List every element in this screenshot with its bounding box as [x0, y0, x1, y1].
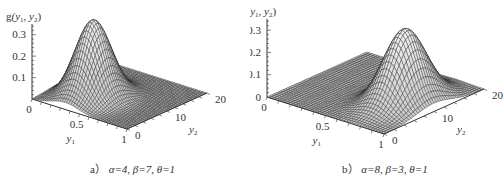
svg-text:1: 1 [378, 138, 384, 150]
z-axis-label: g(y1, y2) [250, 5, 276, 19]
y2-axis-label: y2 [456, 123, 466, 137]
z-axis-ticks: 00.10.20.3 [250, 21, 271, 102]
svg-text:0.5: 0.5 [316, 120, 330, 132]
svg-text:1: 1 [121, 133, 127, 145]
caption-a: a） α=4, β=7, θ=1 [90, 160, 175, 176]
y1-axis-label: y1 [66, 132, 76, 146]
caption-a-theta: θ=1 [157, 163, 175, 175]
y2-axis-label: y2 [188, 123, 198, 137]
svg-text:0: 0 [261, 101, 267, 113]
caption-b-label: b） [342, 163, 359, 175]
svg-text:0: 0 [392, 134, 398, 146]
y1-axis-label: y1 [312, 134, 322, 148]
surface-plot-a: 0.10.20.3g(y1, y2)00.51y101020y2 [0, 0, 250, 160]
svg-text:0.3: 0.3 [12, 28, 26, 40]
caption-a-beta: β=7, [133, 163, 154, 175]
svg-text:0.2: 0.2 [12, 50, 26, 62]
svg-text:20: 20 [492, 89, 503, 101]
svg-text:0.2: 0.2 [250, 46, 261, 58]
svg-text:20: 20 [215, 93, 227, 105]
svg-text:0: 0 [135, 129, 141, 141]
plot-panel-b: 00.10.20.3g(y1, y2)00.51y101020y2 b） α=8… [250, 0, 503, 183]
caption-b-beta: β=3, [385, 163, 406, 175]
svg-text:0.1: 0.1 [12, 71, 26, 83]
svg-text:0: 0 [26, 103, 32, 115]
plot-panel-a: 0.10.20.3g(y1, y2)00.51y101020y2 a） α=4,… [0, 0, 250, 183]
caption-a-alpha: α=4, [109, 163, 130, 175]
z-axis-label: g(y1, y2) [6, 10, 41, 24]
caption-b-alpha: α=8, [361, 163, 382, 175]
caption-b-theta: θ=1 [409, 163, 427, 175]
svg-text:0.3: 0.3 [250, 24, 262, 36]
caption-b: b） α=8, β=3, θ=1 [342, 160, 428, 176]
svg-text:10: 10 [442, 112, 454, 124]
caption-a-label: a） [90, 163, 106, 175]
svg-text:10: 10 [175, 111, 187, 123]
svg-text:0.1: 0.1 [250, 68, 261, 80]
svg-text:0.5: 0.5 [70, 118, 84, 130]
surface-plot-b: 00.10.20.3g(y1, y2)00.51y101020y2 [250, 0, 503, 160]
